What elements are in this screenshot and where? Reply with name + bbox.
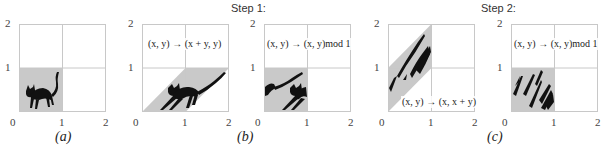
panel-c-mod1: (x, y) → (x, y)mod 1 2 1 0 1 2 <box>511 24 598 112</box>
map-label-mod1-text: (x, y) → (x, y)mod 1 <box>267 38 351 49</box>
panel-a-plot <box>19 24 106 112</box>
x-tick-2: 2 <box>472 117 478 128</box>
x-tick-0: 0 <box>502 117 508 128</box>
y-tick-2: 2 <box>374 18 380 29</box>
x-tick-1: 1 <box>551 117 557 128</box>
y-tick-2: 2 <box>5 18 11 29</box>
y-tick-2: 2 <box>250 18 256 29</box>
caption-c: (c) <box>487 129 503 145</box>
x-tick-1: 1 <box>59 117 65 128</box>
x-tick-0: 0 <box>379 117 385 128</box>
x-tick-0: 0 <box>255 117 261 128</box>
x-tick-1: 1 <box>304 117 310 128</box>
panel-b-shear-x: (x, y) → (x + y, y) 2 1 0 1 2 <box>142 24 229 112</box>
map-label-mod1: (x, y) → (x, y)mod 1 <box>513 38 599 50</box>
x-tick-1: 1 <box>428 117 434 128</box>
panel-c-shear-y: (x, y) → (x, x + y) 2 1 0 1 2 <box>388 24 475 112</box>
step-1-label: Step 1: <box>231 2 266 14</box>
step-2-label: Step 2: <box>481 2 516 14</box>
x-tick-2: 2 <box>595 117 601 128</box>
y-tick-1: 1 <box>374 62 380 73</box>
y-tick-1: 1 <box>5 62 11 73</box>
x-tick-2: 2 <box>226 117 232 128</box>
panel-a-original-cat: 2 1 0 1 2 <box>19 24 106 112</box>
x-tick-2: 2 <box>103 117 109 128</box>
y-tick-1: 1 <box>128 62 134 73</box>
x-tick-2: 2 <box>348 117 354 128</box>
panel-b-mod1: (x, y) → (x, y)mod 1 2 1 0 1 2 <box>264 24 351 112</box>
y-tick-1: 1 <box>497 62 503 73</box>
y-tick-2: 2 <box>497 18 503 29</box>
map-label-shear-y: (x, y) → (x, x + y) <box>401 96 477 108</box>
y-tick-1: 1 <box>250 62 256 73</box>
map-label-shear-x: (x, y) → (x + y, y) <box>147 38 222 50</box>
x-tick-0: 0 <box>10 117 16 128</box>
y-tick-2: 2 <box>128 18 134 29</box>
x-tick-1: 1 <box>182 117 188 128</box>
caption-a: (a) <box>55 129 71 145</box>
x-tick-0: 0 <box>133 117 139 128</box>
map-label-mod1: (x, y) → (x, y)mod 1 <box>266 38 352 50</box>
caption-b: (b) <box>237 129 253 145</box>
map-label-mod1-text: (x, y) → (x, y)mod 1 <box>514 38 598 49</box>
